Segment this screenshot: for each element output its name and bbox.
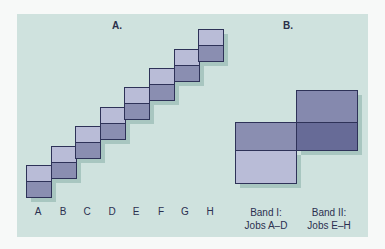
band-overlap-block — [296, 122, 358, 151]
band-i-name: Band I: — [245, 206, 288, 219]
job-b-lower-cell — [51, 162, 77, 179]
band-ii-name: Band II: — [307, 206, 350, 219]
band-i-upper-block — [235, 122, 297, 151]
job-f-lower-cell — [149, 84, 175, 101]
band-i-label: Band I: Jobs A–D — [245, 206, 288, 232]
job-f-upper-cell — [149, 68, 175, 85]
panel-a-title: A. — [112, 20, 122, 31]
job-g-lower-cell — [174, 65, 200, 82]
job-h-upper-cell — [198, 29, 224, 46]
band-ii-jobs: Jobs E–H — [307, 219, 350, 232]
band-ii-label: Band II: Jobs E–H — [307, 206, 350, 232]
job-e-upper-cell — [124, 87, 150, 104]
job-a-lower-cell — [26, 181, 52, 198]
band-i-jobs: Jobs A–D — [245, 219, 288, 232]
job-label-a: A — [35, 205, 42, 218]
job-label-b: B — [60, 205, 67, 218]
job-c-lower-cell — [75, 142, 101, 159]
band-ii-upper-block — [296, 90, 358, 123]
job-d-lower-cell — [100, 123, 126, 140]
panel-b-title: B. — [283, 20, 293, 31]
job-label-f: F — [158, 205, 164, 218]
job-a-upper-cell — [26, 165, 52, 182]
job-label-g: G — [181, 205, 189, 218]
job-label-h: H — [206, 205, 213, 218]
job-d-upper-cell — [100, 107, 126, 124]
job-h-lower-cell — [198, 45, 224, 62]
job-e-lower-cell — [124, 103, 150, 120]
job-label-d: D — [108, 205, 115, 218]
job-g-upper-cell — [174, 49, 200, 66]
band-i-lower-block — [235, 150, 297, 184]
job-b-upper-cell — [51, 146, 77, 163]
job-label-e: E — [133, 205, 140, 218]
job-label-c: C — [83, 205, 90, 218]
job-c-upper-cell — [75, 126, 101, 143]
